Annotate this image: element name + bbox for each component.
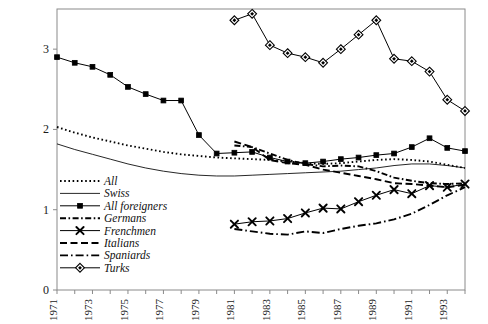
legend-label: Turks bbox=[104, 262, 130, 274]
legend-label: Frenchmen bbox=[103, 225, 156, 237]
data-point-marker bbox=[302, 209, 309, 216]
data-point-marker bbox=[301, 53, 310, 62]
data-point-marker bbox=[392, 151, 397, 156]
x-axis-tick-label: 1989 bbox=[366, 299, 378, 322]
data-point-marker bbox=[265, 41, 274, 50]
legend-label: Germans bbox=[104, 212, 147, 224]
series-all bbox=[57, 127, 465, 168]
data-point-marker bbox=[408, 190, 415, 197]
data-point-marker bbox=[374, 153, 379, 158]
data-point-marker bbox=[445, 145, 450, 150]
data-point-marker bbox=[283, 49, 292, 58]
data-point-marker bbox=[461, 107, 470, 116]
data-point-marker bbox=[425, 67, 434, 76]
x-axis-tick-label: 1991 bbox=[402, 299, 414, 321]
legend-label: All bbox=[103, 175, 117, 187]
series-line bbox=[57, 127, 465, 168]
series-line bbox=[57, 57, 465, 163]
data-point-marker bbox=[161, 98, 166, 103]
data-point-marker bbox=[427, 136, 432, 141]
data-point-marker bbox=[230, 16, 239, 25]
data-point-marker bbox=[248, 9, 257, 18]
data-point-marker bbox=[250, 150, 255, 155]
data-point-marker bbox=[321, 159, 326, 164]
x-axis-tick-label: 1993 bbox=[437, 299, 449, 322]
data-point-marker bbox=[72, 60, 77, 65]
data-point-marker bbox=[55, 55, 60, 60]
data-point-marker bbox=[338, 157, 343, 162]
data-point-marker bbox=[390, 186, 397, 193]
y-axis-tick-label: 0 bbox=[43, 283, 49, 297]
data-point-marker bbox=[373, 192, 380, 199]
data-point-marker bbox=[90, 64, 95, 69]
legend-item-all-foreigners[interactable]: All foreigners bbox=[60, 200, 168, 213]
data-point-marker bbox=[463, 149, 468, 154]
data-point-marker bbox=[108, 72, 113, 77]
x-axis-tick-label: 1977 bbox=[153, 299, 165, 322]
data-point-marker bbox=[78, 203, 83, 208]
legend-label: Spaniards bbox=[104, 249, 151, 262]
data-point-marker bbox=[390, 54, 399, 63]
x-axis-tick-label: 1985 bbox=[295, 299, 307, 322]
data-point-marker bbox=[179, 98, 184, 103]
series-germans bbox=[234, 145, 465, 184]
data-point-marker bbox=[214, 151, 219, 156]
data-point-marker bbox=[76, 263, 85, 272]
y-axis-labels: 0123 bbox=[43, 42, 49, 297]
data-point-marker bbox=[356, 155, 361, 160]
data-point-marker bbox=[197, 133, 202, 138]
data-point-marker bbox=[143, 92, 148, 97]
data-point-marker bbox=[407, 57, 416, 66]
y-axis-tick-label: 1 bbox=[43, 203, 49, 217]
legend-label: Italians bbox=[103, 237, 140, 249]
data-point-marker bbox=[409, 145, 414, 150]
y-axis-tick-label: 2 bbox=[43, 122, 49, 136]
data-point-marker bbox=[232, 150, 237, 155]
x-axis-tick-label: 1973 bbox=[82, 299, 94, 322]
legend-item-germans[interactable]: Germans bbox=[60, 212, 147, 224]
line-chart: 0123 19711973197519771979198119831985198… bbox=[0, 0, 488, 324]
legend-item-italians[interactable]: Italians bbox=[60, 237, 140, 249]
x-axis-tick-label: 1975 bbox=[118, 299, 130, 322]
data-point-marker bbox=[443, 95, 452, 104]
series-line bbox=[234, 187, 465, 234]
series-line bbox=[234, 14, 465, 111]
legend-label: Swiss bbox=[104, 187, 130, 199]
legend-item-frenchmen[interactable]: Frenchmen bbox=[60, 225, 156, 237]
legend-item-all[interactable]: All bbox=[60, 175, 117, 187]
data-point-marker bbox=[126, 84, 131, 89]
chart-container: 0123 19711973197519771979198119831985198… bbox=[0, 0, 488, 324]
series-line bbox=[234, 145, 465, 184]
legend-item-swiss[interactable]: Swiss bbox=[60, 187, 130, 199]
x-axis-tick-label: 1981 bbox=[224, 299, 236, 321]
y-axis-tick-label: 3 bbox=[43, 42, 49, 56]
x-axis-tick-label: 1983 bbox=[260, 299, 272, 322]
data-point-marker bbox=[319, 58, 328, 67]
x-axis-tick-label: 1987 bbox=[331, 299, 343, 322]
data-point-marker bbox=[267, 155, 272, 160]
x-axis-labels: 1971197319751977197919811983198519871989… bbox=[47, 299, 449, 322]
data-point-marker bbox=[355, 198, 362, 205]
series-turks bbox=[230, 9, 469, 115]
legend-label: All foreigners bbox=[103, 200, 168, 213]
legend-item-spaniards[interactable]: Spaniards bbox=[60, 249, 151, 262]
chart-legend: AllSwissAll foreignersGermansFrenchmenIt… bbox=[60, 175, 168, 274]
series-line bbox=[234, 184, 465, 224]
legend-item-turks[interactable]: Turks bbox=[60, 262, 130, 274]
x-axis-tick-label: 1979 bbox=[189, 299, 201, 322]
series-spaniards bbox=[234, 187, 465, 234]
x-axis-tick-label: 1971 bbox=[47, 299, 59, 321]
series-all-foreigners bbox=[55, 55, 468, 166]
